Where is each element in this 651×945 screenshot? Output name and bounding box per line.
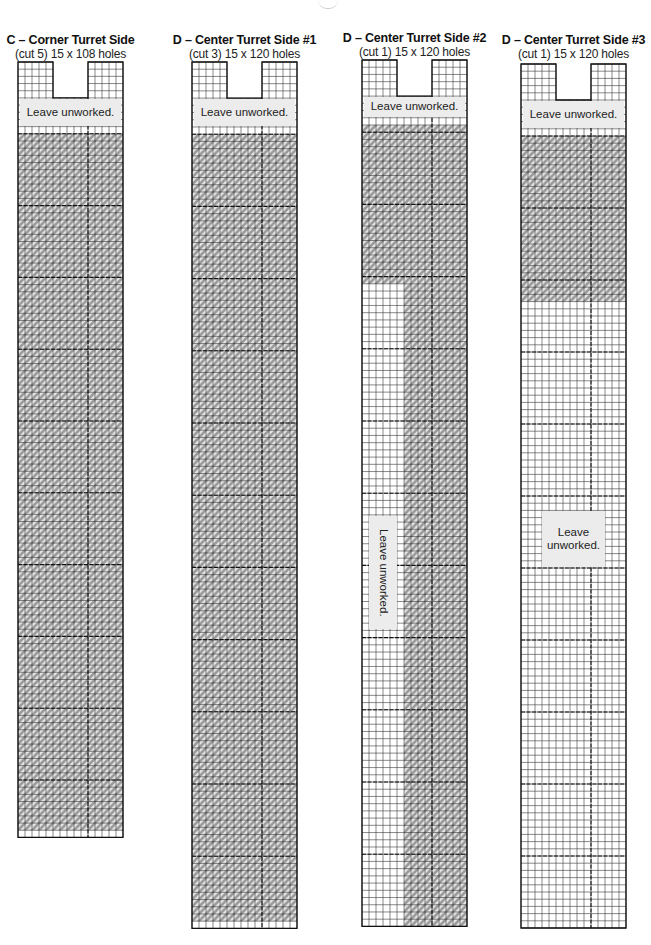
decorative-ornament: [318, 0, 338, 9]
stitched-region: [18, 134, 123, 830]
leave-unworked-label: Leave unworked.: [542, 511, 605, 567]
plastic-canvas-grid: [520, 63, 627, 929]
leave-unworked-label: Leave unworked.: [523, 101, 624, 128]
stitched-region: [192, 134, 297, 921]
piece-title: C – Corner Turret Side: [0, 33, 151, 47]
plastic-canvas-grid: [17, 61, 124, 838]
piece-title: D – Center Turret Side #2: [335, 31, 495, 45]
piece-subtitle: (cut 1) 15 x 120 holes: [335, 45, 495, 59]
piece-subtitle: (cut 5) 15 x 108 holes: [0, 47, 151, 61]
piece-title: D – Center Turret Side #3: [494, 33, 651, 47]
plastic-canvas-grid: [191, 61, 298, 929]
piece-subtitle: (cut 3) 15 x 120 holes: [165, 47, 325, 61]
plastic-canvas-grid: [361, 59, 468, 927]
stitched-region: [521, 136, 626, 302]
leave-unworked-label: Leave unworked.: [364, 97, 465, 117]
leave-unworked-label: Leave unworked.: [194, 99, 295, 126]
piece-subtitle: (cut 1) 15 x 120 holes: [494, 47, 651, 61]
piece-title: D – Center Turret Side #1: [165, 33, 325, 47]
stitched-region: [404, 284, 467, 927]
leave-unworked-label: Leave unworked.: [369, 516, 397, 630]
leave-unworked-label: Leave unworked.: [20, 99, 121, 126]
